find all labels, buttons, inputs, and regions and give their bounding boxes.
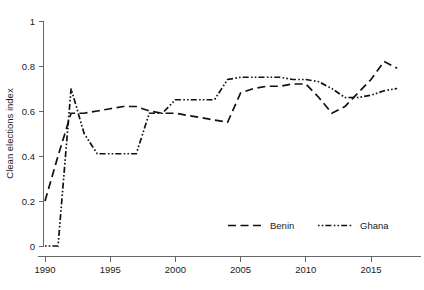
legend: Benin Ghana [228,220,389,231]
y-tick-label: 0.2 [22,196,35,207]
y-tick-label: 0.8 [22,61,35,72]
x-tick-label: 1990 [34,264,55,275]
y-axis-ticks [39,21,44,246]
series-line-benin [45,62,397,202]
x-tick-label: 2005 [230,264,251,275]
x-axis: 1990 1995 2000 2005 2010 2015 [34,257,420,276]
y-axis: 1 0.8 0.6 0.4 0.2 0 Clean elections inde… [4,16,44,252]
x-tick-label: 2015 [360,264,381,275]
y-tick-label: 0.4 [22,151,35,162]
plot-series-group [45,62,397,247]
y-axis-tick-labels: 1 0.8 0.6 0.4 0.2 0 [22,16,35,252]
legend-label-benin: Benin [270,220,294,231]
legend-label-ghana: Ghana [360,220,389,231]
x-axis-ticks [45,257,371,262]
y-tick-label: 0 [30,241,35,252]
line-chart-canvas: 1 0.8 0.6 0.4 0.2 0 Clean elections inde… [0,0,424,290]
x-tick-label: 1995 [100,264,121,275]
y-axis-title: Clean elections index [4,88,15,179]
series-line-ghana [45,77,397,246]
x-axis-tick-labels: 1990 1995 2000 2005 2010 2015 [34,264,381,275]
x-tick-label: 2000 [165,264,186,275]
y-tick-label: 0.6 [22,106,35,117]
x-tick-label: 2010 [295,264,316,275]
chart-figure: 1 0.8 0.6 0.4 0.2 0 Clean elections inde… [0,0,424,290]
y-tick-label: 1 [30,16,35,27]
